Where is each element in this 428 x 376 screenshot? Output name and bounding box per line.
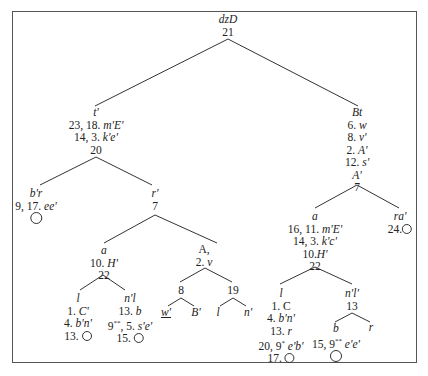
node-count: 22	[90, 269, 118, 282]
node-line: 13. b	[108, 305, 153, 318]
node-line: 15, 9** e'e'	[312, 335, 360, 350]
node-l-left: l 1. C' 4. b'n' 13.	[64, 292, 92, 342]
node-label: ra'	[388, 210, 412, 223]
node-root: dzD 21	[219, 13, 238, 38]
node-line: 13. r	[258, 325, 303, 338]
node-line: 1. C'	[64, 305, 92, 318]
node-label: n'l	[108, 292, 153, 305]
node-circle	[15, 212, 56, 227]
node-count: 7	[345, 181, 369, 194]
node-label: l	[258, 287, 303, 300]
node-Bt: Bt 6. w 8. v' 2. A' 12. s' A' 7	[345, 106, 369, 194]
node-line: 20, 9* e'b'	[258, 337, 303, 352]
node-label: b'r	[15, 187, 56, 200]
node-line: 4. b'n'	[64, 317, 92, 330]
leaf-n-prime: n'	[244, 306, 252, 319]
node-line: 23, 18. m'E'	[69, 119, 124, 132]
node-l-right: l 1. C 4. b'n' 13. r 20, 9* e'b' 17.	[258, 287, 303, 365]
node-line: 17.	[258, 352, 303, 365]
node-line: 12. s'	[345, 156, 369, 169]
node-line: 4. b'n'	[258, 312, 303, 325]
node-a-right: a 16, 11. m'E' 14, 3. k'c' 10.H' 22	[288, 210, 342, 273]
leaf-r: r	[369, 321, 373, 334]
node-line: 10. H'	[90, 257, 118, 270]
node-nl-left: n'l 13. b 9**, 5. s'e' 15.	[108, 292, 153, 345]
node-line: A'	[345, 169, 369, 182]
node-label: a	[90, 244, 118, 257]
circle-icon	[285, 353, 295, 363]
circle-icon	[134, 333, 144, 343]
node-label: Bt	[345, 106, 369, 119]
node-line: 15.	[108, 332, 153, 345]
node-line: 9, 17. ee'	[15, 200, 56, 213]
node-label: t'	[69, 106, 124, 119]
node-root-label: dzD	[219, 13, 238, 26]
node-line: 9**, 5. s'e'	[108, 317, 153, 332]
node-label: l	[64, 292, 92, 305]
node-label: r'	[152, 187, 159, 200]
node-label: b	[312, 322, 360, 335]
node-count: 19	[227, 284, 239, 297]
node-line: 2. v	[196, 256, 213, 269]
node-line: 24.	[388, 223, 412, 236]
node-count: 20	[69, 144, 124, 157]
circle-icon	[330, 350, 342, 362]
node-count: 8	[178, 284, 184, 297]
node-A: A, 2. v	[196, 243, 213, 268]
node-line: 10.H'	[288, 248, 342, 261]
node-line: 14, 3. k'c'	[288, 235, 342, 248]
circle-icon	[82, 331, 92, 341]
node-r-prime: r' 7	[152, 187, 159, 212]
circle-icon	[30, 212, 42, 224]
node-number: 17.	[267, 352, 281, 364]
node-nl-right: n'l' 13	[345, 287, 359, 312]
node-number: 24.	[388, 223, 402, 235]
node-19: 19	[227, 284, 239, 297]
node-line: 2. A'	[345, 144, 369, 157]
node-line: 16, 11. m'E'	[288, 223, 342, 236]
node-a-left: a 10. H' 22	[90, 244, 118, 282]
leaf-l: l	[216, 306, 219, 319]
node-circle	[312, 350, 360, 365]
node-label: n'l'	[345, 287, 359, 300]
leaf-B-prime: B'	[191, 306, 200, 319]
node-8: 8	[178, 284, 184, 297]
node-line: 6. w	[345, 119, 369, 132]
node-root-count: 21	[219, 26, 238, 39]
leaf-w-prime: w'	[161, 306, 171, 319]
node-label: A,	[196, 243, 213, 256]
node-line: 14, 3. k'e'	[69, 131, 124, 144]
node-number: 13.	[64, 330, 78, 342]
circle-icon	[402, 224, 412, 234]
node-line: 1. C	[258, 300, 303, 313]
node-count: 22	[288, 260, 342, 273]
node-t-prime: t' 23, 18. m'E' 14, 3. k'e' 20	[69, 106, 124, 156]
node-label: a	[288, 210, 342, 223]
node-b-right: b 15, 9** e'e'	[312, 322, 360, 364]
node-br: b'r 9, 17. ee'	[15, 187, 56, 227]
node-line: 8. v'	[345, 131, 369, 144]
node-ra-prime: ra' 24.	[388, 210, 412, 235]
node-count: 13	[345, 300, 359, 313]
node-line: 13.	[64, 330, 92, 343]
node-number: 15.	[116, 332, 130, 344]
node-count: 7	[152, 200, 159, 213]
